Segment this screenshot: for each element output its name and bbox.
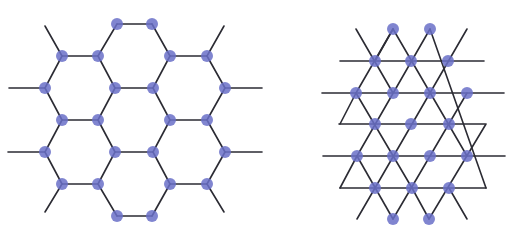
atom-node [424,150,436,162]
atom-node [369,55,381,67]
atom-node [461,87,473,99]
atom-node [405,118,417,130]
triangular-lattice-diagram [0,0,516,231]
atom-node [461,150,473,162]
atom-node [424,23,436,35]
atom-node [350,87,362,99]
atom-node [405,55,417,67]
atom-node [369,182,381,194]
atom-node [442,55,454,67]
atom-node [443,118,455,130]
bond-line [375,29,467,188]
atom-node [443,182,455,194]
atom-node [387,213,399,225]
atom-node [387,150,399,162]
atom-node [351,150,363,162]
atom-node [406,182,418,194]
atom-node [387,87,399,99]
lattice-figure [0,0,516,231]
atom-node [387,23,399,35]
atom-node [423,213,435,225]
atom-node [424,87,436,99]
atom-node [369,118,381,130]
